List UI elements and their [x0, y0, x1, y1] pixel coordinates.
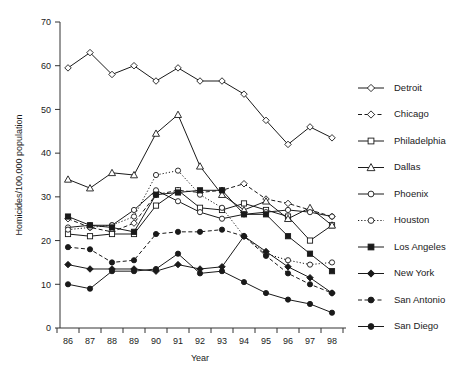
y-tick-label: 50 — [41, 105, 51, 115]
legend-item-detroit[interactable]: Detroit — [358, 82, 422, 93]
y-tick-label: 10 — [41, 280, 51, 290]
legend-item-dallas[interactable]: Dallas — [358, 161, 421, 172]
series-detroit — [65, 49, 336, 147]
legend-item-label: Philadelphia — [394, 135, 446, 146]
legend-item-houston[interactable]: Houston — [358, 214, 429, 225]
legend-item-label: Chicago — [394, 108, 429, 119]
legend-item-label: Phoenix — [394, 188, 429, 199]
chart-canvas: 010203040506070Homicides/100,000 populat… — [0, 0, 471, 386]
x-tick-label: 86 — [63, 336, 73, 346]
x-tick-label: 88 — [107, 336, 117, 346]
y-tick-label: 0 — [46, 323, 51, 333]
y-tick-label: 70 — [41, 17, 51, 27]
legend-item-san-diego[interactable]: San Diego — [358, 320, 438, 331]
series-houston — [65, 168, 334, 267]
legend-item-label: Los Angeles — [394, 241, 446, 252]
x-tick-label: 92 — [195, 336, 205, 346]
legend-item-label: New York — [394, 267, 434, 278]
legend-item-los-angeles[interactable]: Los Angeles — [358, 241, 446, 252]
x-tick-label: 97 — [305, 336, 315, 346]
x-tick-label: 98 — [327, 336, 337, 346]
legend: DetroitChicagoPhiladelphiaDallasPhoenixH… — [358, 82, 446, 332]
legend-item-san-antonio[interactable]: San Antonio — [358, 294, 445, 305]
y-tick-label: 60 — [41, 61, 51, 71]
homicide-rate-line-chart: 010203040506070Homicides/100,000 populat… — [0, 0, 471, 386]
x-axis-title: Year — [191, 353, 209, 363]
series-new-york — [65, 233, 336, 296]
x-tick-label: 91 — [173, 336, 183, 346]
legend-item-phoenix[interactable]: Phoenix — [358, 188, 429, 199]
x-tick-label: 94 — [239, 336, 249, 346]
legend-item-new-york[interactable]: New York — [358, 267, 434, 278]
plot-area — [64, 49, 335, 315]
y-axis-title: Homicides/100,000 population — [14, 114, 24, 235]
legend-item-label: Houston — [394, 214, 429, 225]
x-tick-label: 90 — [151, 336, 161, 346]
y-tick-label: 30 — [41, 192, 51, 202]
x-tick-label: 96 — [283, 336, 293, 346]
x-tick-label: 95 — [261, 336, 271, 346]
x-tick-label: 89 — [129, 336, 139, 346]
legend-item-label: Detroit — [394, 82, 422, 93]
x-axis: 86878889909192939495969798 — [57, 328, 346, 346]
series-san-diego — [65, 251, 334, 315]
legend-item-label: San Diego — [394, 320, 438, 331]
legend-item-philadelphia[interactable]: Philadelphia — [358, 135, 446, 146]
y-axis: 010203040506070 — [41, 17, 60, 333]
legend-item-label: Dallas — [394, 161, 421, 172]
legend-item-label: San Antonio — [394, 294, 445, 305]
x-tick-label: 93 — [217, 336, 227, 346]
x-tick-label: 87 — [85, 336, 95, 346]
y-tick-label: 40 — [41, 148, 51, 158]
legend-item-chicago[interactable]: Chicago — [358, 108, 429, 119]
y-tick-label: 20 — [41, 236, 51, 246]
